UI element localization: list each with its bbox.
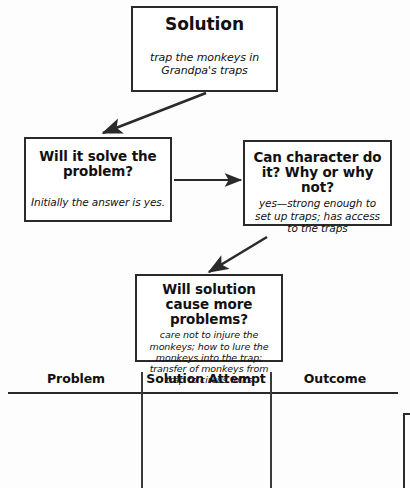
node-can-character-detail: yes—strong enough to set up traps; has a… (250, 197, 385, 234)
node-can-character-title: Can character do it? Why or why not? (250, 150, 385, 195)
table-header-outcome: Outcome (274, 371, 396, 386)
node-solution-title: Solution (138, 15, 271, 34)
table-header-rule (8, 392, 398, 394)
table-column-divider-1 (141, 372, 143, 488)
node-will-it-solve-detail: Initially the answer is yes. (31, 196, 165, 208)
connector-can-character-to-more-problems (209, 237, 267, 272)
table-column-divider-2 (270, 372, 272, 488)
table-header-problem: Problem (14, 371, 138, 386)
flowchart-page: Solution trap the monkeys in Grandpa's t… (0, 0, 410, 488)
node-can-character[interactable]: Can character do it? Why or why not? yes… (243, 140, 392, 226)
node-solution-detail: trap the monkeys in Grandpa's traps (138, 52, 271, 78)
connector-solution-to-will-it-solve (103, 93, 206, 133)
node-will-it-solve-title: Will it solve the problem? (31, 149, 165, 179)
adjacent-table-edge-fragment (403, 413, 410, 488)
node-solution[interactable]: Solution trap the monkeys in Grandpa's t… (131, 6, 278, 92)
table-header-solution-attempt: Solution Attempt (145, 371, 267, 386)
problem-solution-outcome-table: Problem Solution Attempt Outcome (0, 362, 410, 488)
node-more-problems[interactable]: Will solution cause more problems? care … (135, 274, 283, 362)
node-more-problems-title: Will solution cause more problems? (142, 282, 276, 327)
node-will-it-solve[interactable]: Will it solve the problem? Initially the… (24, 137, 172, 222)
